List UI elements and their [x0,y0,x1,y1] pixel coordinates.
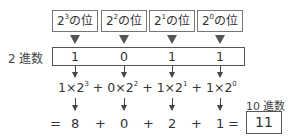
times-sign: × [66,80,76,95]
header-base: 2 [154,14,162,28]
arrow-down-icon [124,66,125,77]
arrow-down-icon [75,66,76,77]
times-sign: × [165,80,175,95]
arrow-down-icon [172,66,173,77]
decimal-result-box: 11 [246,111,282,134]
plus-sign: + [191,116,202,132]
equals-sign: = [228,116,239,132]
result-value: 0 [120,116,128,132]
result-value: 8 [71,116,79,132]
result-value: 2 [168,116,176,132]
term-coef: 1 [157,80,165,95]
place-header-2-0: 20の位 [197,10,243,32]
place-header-2-2: 22の位 [101,10,147,32]
header-base: 2 [202,14,210,28]
expansion-formula: 1×23 + 0×22 + 1×21 + 1×20 [58,80,237,96]
plus-sign: + [95,116,106,132]
binary-label: 2 進数 [8,49,43,66]
times-sign: × [115,80,125,95]
binary-digit: 1 [162,47,182,66]
triangle-down-icon [70,35,80,44]
arrow-down-icon [172,98,173,110]
term-coef: 1 [206,80,214,95]
term-exp: 2 [134,80,138,88]
arrow-down-icon [75,98,76,110]
binary-digit: 1 [210,47,230,66]
triangle-down-icon [215,35,225,44]
arrow-down-icon [124,98,125,110]
plus-sign: + [93,80,103,95]
header-suffix: の位 [118,14,142,28]
term-exp: 0 [232,80,236,88]
place-header-2-3: 23の位 [52,10,98,32]
header-suffix: の位 [69,14,93,28]
arrow-down-icon [220,66,221,77]
binary-digit: 1 [65,47,85,66]
header-suffix: の位 [214,14,238,28]
triangle-down-icon [167,35,177,44]
header-base: 2 [57,14,65,28]
plus-sign: + [142,80,152,95]
binary-digit: 0 [114,47,134,66]
term-base: 2 [175,80,183,95]
header-base: 2 [106,14,114,28]
result-value: 1 [216,116,224,132]
plus-sign: + [191,80,201,95]
place-header-2-1: 21の位 [149,10,195,32]
triangle-down-icon [119,35,129,44]
term-coef: 1 [58,80,66,95]
term-exp: 3 [84,80,88,88]
header-suffix: の位 [166,14,190,28]
plus-sign: + [143,116,154,132]
equals-sign: = [50,116,61,132]
times-sign: × [214,80,224,95]
arrow-down-icon [220,98,221,110]
term-base: 2 [126,80,134,95]
term-exp: 1 [183,80,187,88]
